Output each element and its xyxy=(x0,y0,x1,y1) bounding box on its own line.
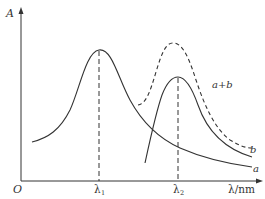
absorption-spectrum-diagram: A O λ/nm λ 1 λ 2 a+b b a xyxy=(0,0,265,199)
curve-a-label: a xyxy=(253,163,259,174)
curve-b xyxy=(145,77,252,163)
lambda2-subscript: 2 xyxy=(180,189,184,197)
lambda1-tick-label: λ 1 xyxy=(94,183,105,197)
origin-label: O xyxy=(13,183,22,196)
curve-a-plus-b-label: a+b xyxy=(212,79,233,90)
y-axis xyxy=(19,7,24,181)
lambda2-tick-label: λ 2 xyxy=(173,183,184,197)
y-axis-label: A xyxy=(5,7,14,20)
lambda1-subscript: 1 xyxy=(101,189,105,197)
x-axis-label: λ/nm xyxy=(228,183,255,195)
lambda1-main: λ xyxy=(94,183,101,195)
curve-a xyxy=(32,50,252,167)
x-axis-arrow-icon xyxy=(256,179,263,184)
y-axis-arrow-icon xyxy=(19,7,24,14)
lambda2-main: λ xyxy=(173,183,180,195)
x-axis xyxy=(21,179,263,184)
curve-b-label: b xyxy=(250,144,256,155)
